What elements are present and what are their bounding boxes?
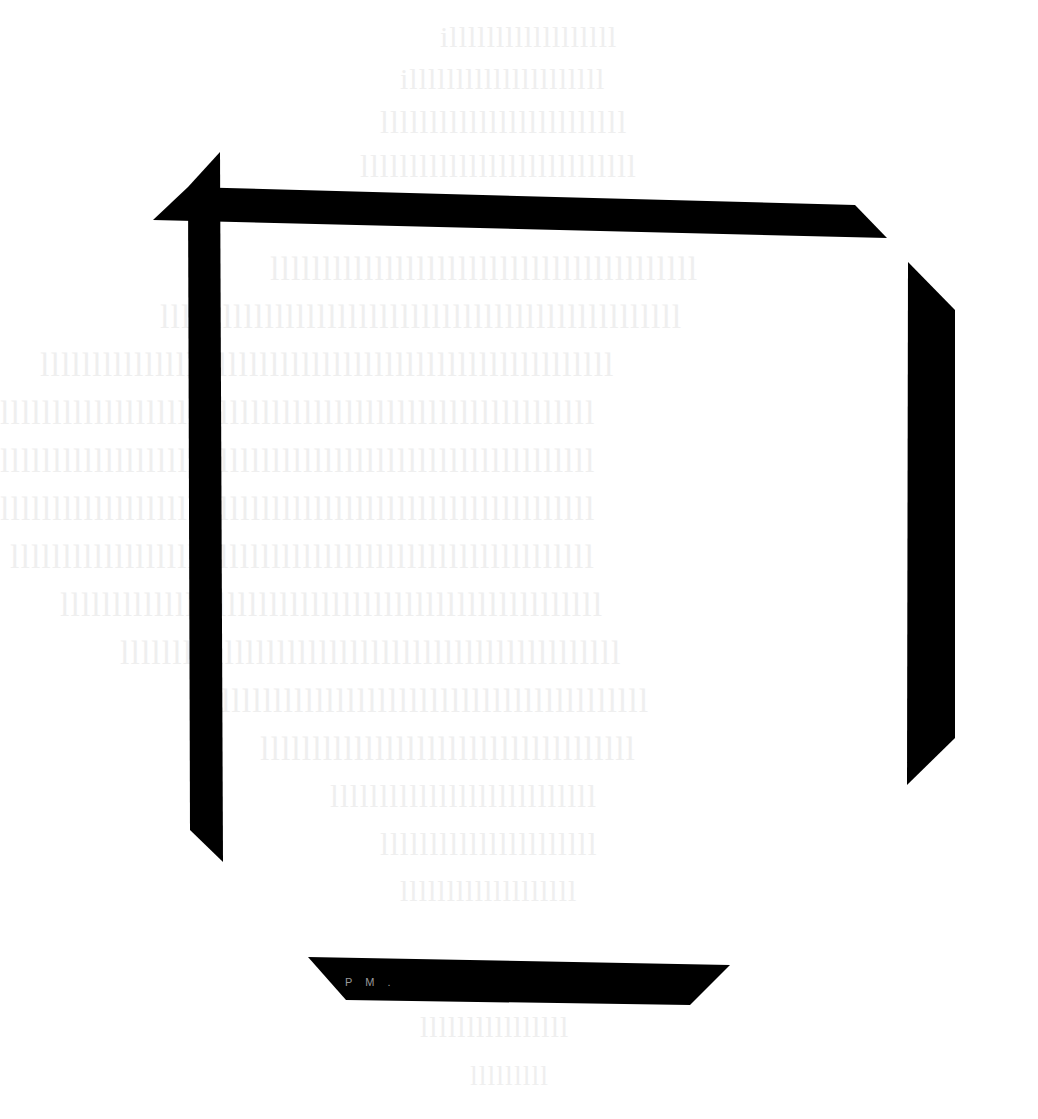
top-bar: [153, 187, 887, 238]
left-bar: [188, 152, 223, 862]
right-bar: [907, 262, 955, 785]
frame-bars: [0, 0, 1038, 1119]
bottom-bar-mark: P M .: [345, 976, 395, 988]
